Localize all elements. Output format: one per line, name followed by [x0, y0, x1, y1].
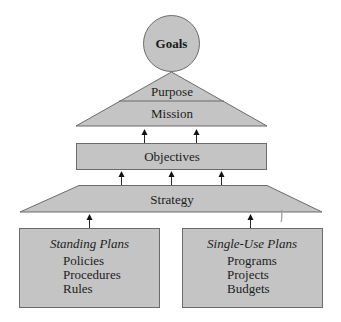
arrow-up-icon: [87, 214, 93, 220]
single-use-plans-item: Projects: [227, 267, 269, 282]
single-use-plans-title: Single-Use Plans: [207, 236, 297, 251]
single-use-plans-item: Programs: [227, 253, 277, 268]
single-use-plans-node: Single-Use Plans Programs Projects Budge…: [183, 229, 323, 308]
objectives-label: Objectives: [144, 149, 200, 164]
arrow-single-use-to-strategy: [248, 214, 254, 228]
arrow-objectives-to-mission-2: [194, 129, 200, 143]
purpose-mission-pyramid: Purpose Mission: [76, 72, 267, 126]
arrow-strategy-to-objectives-3: [219, 171, 225, 185]
arrow-strategy-to-objectives-1: [119, 171, 125, 185]
arrow-standing-to-strategy: [87, 214, 93, 228]
arrow-objectives-to-mission-1: [142, 129, 148, 143]
strategy-node: Strategy: [20, 186, 322, 213]
strategy-label: Strategy: [150, 192, 194, 207]
goals-node: Goals: [144, 16, 200, 72]
arrow-up-icon: [248, 214, 254, 220]
standing-plans-item: Rules: [63, 281, 93, 296]
standing-plans-item: Policies: [63, 253, 104, 268]
standing-plans-node: Standing Plans Policies Procedures Rules: [20, 229, 160, 308]
arrow-up-icon: [169, 171, 175, 177]
mission-label: Mission: [151, 106, 193, 121]
arrow-up-icon: [119, 171, 125, 177]
arrow-up-icon: [219, 171, 225, 177]
arrow-strategy-to-objectives-2: [169, 171, 175, 185]
arrow-up-icon: [142, 129, 148, 135]
arrow-up-icon: [194, 129, 200, 135]
planning-hierarchy-diagram: Goals Purpose Mission Objectives Strateg…: [0, 0, 341, 322]
single-use-plans-item: Budgets: [227, 281, 270, 296]
standing-plans-item: Procedures: [63, 267, 121, 282]
goals-label: Goals: [156, 36, 188, 51]
purpose-label: Purpose: [151, 84, 193, 99]
standing-plans-title: Standing Plans: [50, 236, 129, 251]
objectives-node: Objectives: [77, 144, 267, 170]
